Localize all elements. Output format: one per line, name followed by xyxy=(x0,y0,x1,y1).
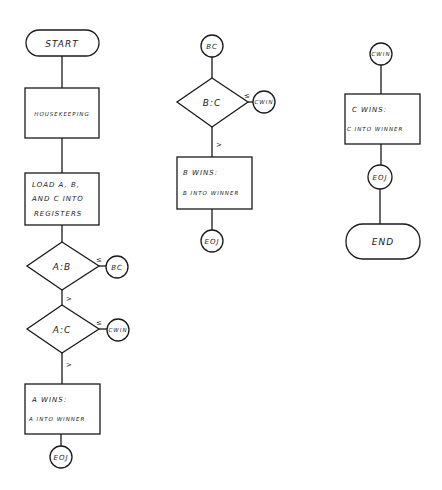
connector-cwin: CWIN xyxy=(107,319,129,341)
load-line-3: REGISTERS xyxy=(34,210,82,218)
a-wins-line-2: A INTO WINNER xyxy=(28,416,85,422)
le-label: ≤ xyxy=(96,319,103,327)
decision-b-c: B:C xyxy=(177,78,248,127)
eoj-label: EOJ xyxy=(205,238,220,246)
gt-label: > xyxy=(216,141,223,149)
eoj-connector: EOJ xyxy=(50,446,72,468)
a-wins-process: A WINS: A INTO WINNER xyxy=(25,384,100,434)
le-label: ≤ xyxy=(244,92,251,100)
decision-a-b: A:B xyxy=(27,242,99,290)
flowchart-canvas: START HOUSEKEEPING LOAD A, B, AND C INTO… xyxy=(0,0,442,490)
decision-a-c: A:C xyxy=(27,305,99,353)
column-1: START HOUSEKEEPING LOAD A, B, AND C INTO… xyxy=(25,30,129,468)
column-3: CWIN C WINS: C INTO WINNER EOJ END xyxy=(345,43,420,259)
c-wins-line-1: C WINS: xyxy=(352,106,387,114)
connector-bc-label: BC xyxy=(111,264,123,272)
gt-label: > xyxy=(66,361,73,369)
housekeeping-process: HOUSEKEEPING xyxy=(25,88,99,138)
gt-label: > xyxy=(66,295,73,303)
end-label: END xyxy=(372,237,394,247)
c-wins-line-2: C INTO WINNER xyxy=(347,126,403,132)
c-wins-process: C WINS: C INTO WINNER xyxy=(345,94,420,144)
eoj-label: EOJ xyxy=(373,174,388,182)
b-wins-line-1: B WINS: xyxy=(183,169,218,177)
connector-cwin-label: CWIN xyxy=(254,99,273,105)
connector-cwin-label: CWIN xyxy=(371,51,390,57)
connector-cwin-entry: CWIN xyxy=(370,43,392,65)
b-wins-process: B WINS: B INTO WINNER xyxy=(177,157,252,209)
decision-a-b-label: A:B xyxy=(52,262,72,272)
eoj-label: EOJ xyxy=(54,454,69,462)
eoj-connector: EOJ xyxy=(368,165,392,189)
connector-bc-entry: BC xyxy=(201,35,223,57)
decision-a-c-label: A:C xyxy=(52,325,72,335)
connector-bc: BC xyxy=(106,256,128,278)
load-registers-process: LOAD A, B, AND C INTO REGISTERS xyxy=(25,173,99,225)
connector-cwin: CWIN xyxy=(253,91,275,113)
connector-cwin-label: CWIN xyxy=(108,327,127,333)
a-wins-line-1: A WINS: xyxy=(31,396,67,404)
housekeeping-label: HOUSEKEEPING xyxy=(34,111,89,117)
load-line-1: LOAD A, B, xyxy=(32,181,80,189)
end-terminator: END xyxy=(346,224,420,259)
start-label: START xyxy=(45,39,79,49)
connector-bc-label: BC xyxy=(206,43,218,51)
decision-b-c-label: B:C xyxy=(203,98,222,108)
b-wins-line-2: B INTO WINNER xyxy=(183,190,239,196)
column-2: BC B:C ≤ CWIN > B WINS: B INTO WINNER EO… xyxy=(177,35,275,252)
eoj-connector: EOJ xyxy=(201,230,223,252)
load-line-2: AND C INTO xyxy=(31,195,84,203)
start-terminator: START xyxy=(26,30,99,56)
le-label: ≤ xyxy=(96,256,103,264)
